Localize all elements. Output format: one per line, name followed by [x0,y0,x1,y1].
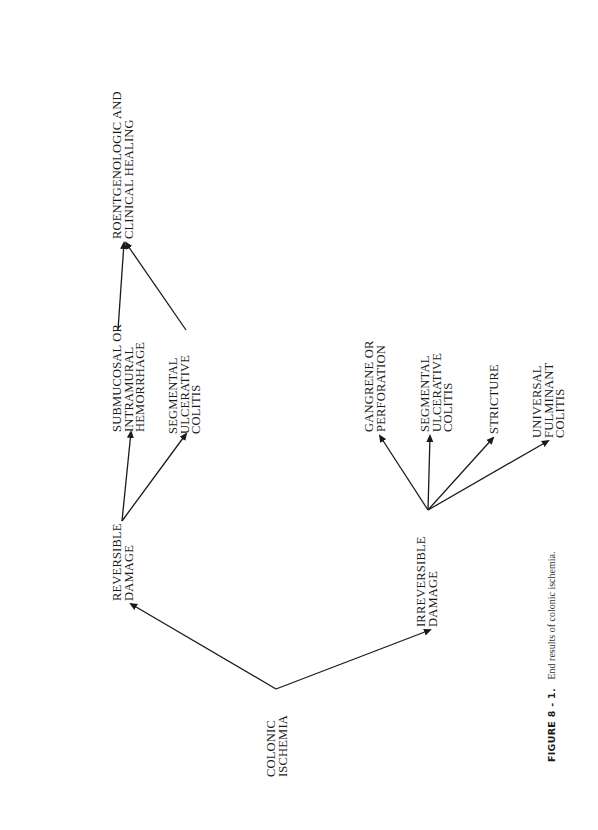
node-stricture-line-1: STRICTURE [489,364,501,434]
node-segmental-rev-line-3: COLITIS [191,355,203,434]
node-healing: ROENTGENOLOGIC AND CLINICAL HEALING [112,91,135,239]
edge-segmental-to-healing [126,243,186,330]
node-universal-line-3: COLITIS [555,363,567,438]
node-colonic-ischemia: COLONIC ISCHEMIA [266,715,289,777]
edge-irreversible-to-universal [428,441,548,510]
figure-caption-text: End results of colonic ischemia. [546,552,557,680]
node-segmental-colitis-reversible: SEGMENTAL ULCERATIVE COLITIS [168,355,203,434]
edge-ischemia-to-reversible [131,604,276,689]
figure-caption: FIGURE 8 - 1. End results of colonic isc… [546,552,557,762]
node-irreversible-damage: IRREVERSIBLE DAMAGE [416,536,439,627]
edge-irreversible-to-stricture [428,438,493,510]
node-submucosal-hemorrhage: SUBMUCOSAL OR INTRAMURAL HEMORRHAGE [112,324,147,432]
node-universal-colitis: UNIVERSAL FULMINANT COLITIS [532,363,567,438]
figure-number: FIGURE 8 - 1. [546,688,557,762]
edge-ischemia-to-irreversible [276,630,430,689]
node-healing-line-2: CLINICAL HEALING [124,91,136,239]
node-segmental-colitis-irreversible: SEGMENTAL ULCERATIVE COLITIS [420,353,455,432]
node-gangrene-line-2: PERFORATION [376,341,388,432]
node-segmental-irrev-line-3: COLITIS [443,353,455,432]
edge-reversible-to-submucosal [122,432,131,521]
diagram-connectors [0,0,598,830]
edge-irreversible-to-gangrene [380,436,428,510]
node-submucosal-line-3: HEMORRHAGE [135,324,147,432]
node-reversible-damage-line-2: DAMAGE [124,523,136,601]
node-colonic-ischemia-line-2: ISCHEMIA [278,715,290,777]
node-stricture: STRICTURE [489,364,501,434]
node-reversible-damage: REVERSIBLE DAMAGE [112,523,135,601]
node-irreversible-damage-line-2: DAMAGE [428,536,440,627]
edge-reversible-to-segmental [122,434,186,521]
edge-submucosal-to-healing [118,243,124,330]
node-gangrene: GANGRENE OR PERFORATION [364,341,387,432]
edge-irreversible-to-segmental [428,436,430,510]
